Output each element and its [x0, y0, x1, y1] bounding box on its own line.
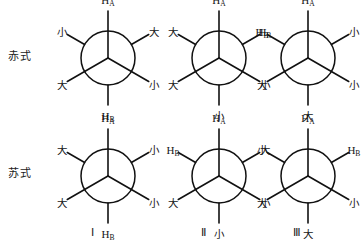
substituent-lower-left: 大: [168, 79, 178, 90]
substituent-symbol: H: [347, 143, 355, 155]
substituent-top: HA: [212, 113, 225, 124]
bond-upper-left-back: [67, 153, 84, 163]
bond-lower-right-front: [108, 58, 149, 82]
bond-lower-left-front: [267, 58, 308, 82]
substituent-upper-right: 大: [149, 26, 159, 37]
substituent-subscript: B: [264, 30, 269, 39]
substituent-lower-left: 大: [257, 79, 267, 90]
substituent-upper-left: 大: [168, 26, 178, 37]
substituent-lower-right: 小: [349, 79, 359, 90]
substituent-top: HA: [101, 0, 114, 6]
bond-lower-left-front: [67, 58, 108, 82]
bond-upper-right-back: [131, 35, 148, 45]
column-caption-3: Ⅲ: [277, 226, 317, 239]
substituent-top: HA: [301, 113, 314, 124]
substituent-subscript: A: [220, 0, 225, 8]
newman-projection-erythro-1: HA小大大小HB: [52, 6, 164, 110]
bond-upper-left-back: [267, 153, 284, 163]
substituent-symbol: H: [212, 112, 220, 124]
row-label-erythro: 赤式: [8, 47, 54, 63]
bond-upper-right-back: [331, 153, 348, 163]
row-label-threo: 苏式: [8, 164, 54, 180]
substituent-lower-right: 小: [149, 79, 159, 90]
substituent-symbol: H: [256, 25, 264, 37]
substituent-lower-right: 小: [149, 197, 159, 208]
substituent-subscript: A: [220, 117, 225, 126]
bond-upper-right-back: [331, 35, 348, 45]
substituent-lower-left: 大: [168, 197, 178, 208]
substituent-upper-left: HB: [167, 144, 180, 155]
bond-lower-left-front: [267, 176, 308, 200]
substituent-symbol: H: [101, 0, 109, 6]
substituent-upper-left: 小: [257, 144, 267, 155]
substituent-lower-left: 大: [257, 197, 267, 208]
substituent-upper-right: 小: [349, 26, 359, 37]
substituent-lower-left: 大: [57, 79, 67, 90]
substituent-subscript: A: [109, 117, 114, 126]
newman-skeleton: [52, 6, 164, 110]
column-caption-1: Ⅰ: [72, 226, 112, 239]
bond-lower-left-front: [178, 58, 219, 82]
substituent-upper-right: HB: [347, 144, 360, 155]
substituent-upper-right: 小: [149, 144, 159, 155]
substituent-symbol: H: [301, 112, 309, 124]
newman-projection-threo-3: HA小HB大小大: [252, 124, 364, 228]
newman-skeleton: [252, 6, 364, 110]
bond-lower-right-front: [308, 58, 349, 82]
newman-skeleton: [252, 124, 364, 228]
bond-upper-left-back: [267, 35, 284, 45]
newman-skeleton: [52, 124, 164, 228]
substituent-top: HA: [101, 113, 114, 124]
bond-upper-left-back: [67, 35, 84, 45]
bond-upper-left-back: [178, 35, 195, 45]
substituent-upper-left: HB: [256, 26, 269, 37]
bond-lower-right-front: [108, 176, 149, 200]
substituent-symbol: H: [167, 143, 175, 155]
substituent-lower-left: 大: [57, 197, 67, 208]
substituent-upper-left: 大: [57, 144, 67, 155]
substituent-subscript: B: [355, 148, 360, 157]
bond-lower-left-front: [67, 176, 108, 200]
substituent-subscript: A: [109, 0, 114, 8]
bond-upper-right-back: [131, 153, 148, 163]
substituent-lower-right: 小: [349, 197, 359, 208]
bond-lower-right-front: [308, 176, 349, 200]
column-caption-2: Ⅱ: [183, 226, 223, 239]
bond-lower-left-front: [178, 176, 219, 200]
substituent-subscript: A: [309, 0, 314, 8]
substituent-subscript: B: [175, 148, 180, 157]
substituent-subscript: A: [309, 117, 314, 126]
substituent-symbol: H: [101, 112, 109, 124]
newman-projection-threo-1: HA大小大小HB: [52, 124, 164, 228]
substituent-symbol: H: [212, 0, 220, 6]
substituent-upper-left: 小: [57, 26, 67, 37]
bond-upper-left-back: [178, 153, 195, 163]
substituent-top: HA: [301, 0, 314, 6]
newman-projection-erythro-3: HAHB小大小大: [252, 6, 364, 110]
substituent-top: HA: [212, 0, 225, 6]
substituent-symbol: H: [301, 0, 309, 6]
